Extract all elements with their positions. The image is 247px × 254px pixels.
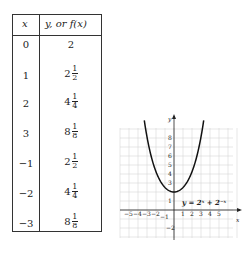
x-tick-label: 2 — [190, 210, 194, 217]
whole-part: 2 — [68, 39, 74, 50]
cell-y: 818 — [40, 213, 102, 230]
x-tick-label: −1 — [160, 213, 169, 220]
cell-x: 2 — [13, 98, 39, 109]
cell-x: −3 — [13, 218, 39, 229]
x-tick-label: −5 — [124, 210, 133, 217]
cell-y: 212 — [40, 153, 102, 170]
header-y: y, or f(x) — [45, 18, 87, 29]
cell-y: 212 — [40, 65, 102, 82]
fraction: 12 — [72, 65, 78, 82]
cell-y: 2 — [40, 39, 102, 50]
y-tick-label: 6 — [168, 152, 172, 159]
whole-part: 2 — [64, 156, 70, 167]
fraction: 12 — [72, 153, 78, 170]
fraction: 14 — [72, 183, 78, 200]
cell-x: 0 — [13, 39, 39, 50]
y-tick-label: 5 — [168, 161, 172, 168]
x-tick-label: 3 — [199, 210, 203, 217]
whole-part: 8 — [64, 126, 70, 137]
y-tick-label: 8 — [168, 134, 172, 141]
y-axis-label: y — [167, 115, 172, 123]
x-tick-label: 1 — [181, 210, 185, 217]
grid — [120, 128, 237, 238]
values-table: x y, or f(x) 02121224143818−1212−2414−38… — [12, 14, 102, 232]
y-tick-label: −2 — [166, 224, 175, 231]
header-divider — [13, 35, 101, 36]
y-tick-label: 3 — [168, 179, 172, 186]
fraction: 18 — [72, 213, 78, 230]
y-tick-label: 1 — [168, 197, 172, 204]
whole-part: 2 — [64, 68, 70, 79]
x-tick-label: 5 — [217, 210, 221, 217]
fraction: 14 — [72, 93, 78, 110]
cell-y: 818 — [40, 123, 102, 140]
whole-part: 4 — [64, 96, 70, 107]
x-tick-label: 4 — [208, 210, 212, 217]
fraction: 18 — [72, 123, 78, 140]
header-x: x — [22, 18, 28, 29]
cell-x: 1 — [13, 70, 39, 81]
x-tick-label: −2 — [151, 210, 160, 217]
y-axis-arrow — [172, 114, 176, 119]
x-tick-label: −3 — [142, 210, 151, 217]
y-tick-label: 7 — [168, 143, 172, 150]
cell-x: 3 — [13, 128, 39, 139]
y-tick-label: 4 — [168, 170, 172, 177]
x-tick-label: −4 — [133, 210, 142, 217]
whole-part: 4 — [64, 186, 70, 197]
cell-x: −2 — [13, 188, 39, 199]
whole-part: 8 — [64, 216, 70, 227]
function-graph: y x −5−4−3−2−1123451345678−2 y = 2ˣ + 2⁻… — [118, 108, 247, 240]
equation-label: y = 2ˣ + 2⁻ˣ — [181, 198, 227, 207]
cell-y: 414 — [40, 183, 102, 200]
cell-x: −1 — [13, 158, 39, 169]
x-axis-label: x — [236, 216, 240, 223]
cell-y: 414 — [40, 93, 102, 110]
x-axis-arrow — [237, 208, 242, 212]
